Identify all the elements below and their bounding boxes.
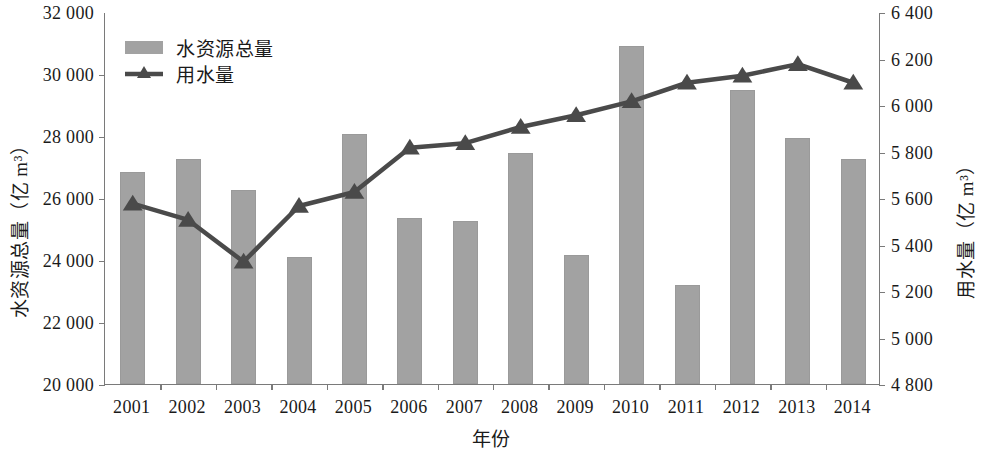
y-right-tick-6200: 6 200 [891,49,933,70]
tickmark-right [879,292,885,293]
legend-label-bar: 水资源总量 [176,34,274,61]
bar-swatch-icon [125,41,163,54]
legend-item-bar: 水资源总量 [125,34,274,60]
tickmark-bottom [715,384,716,390]
tickmark-bottom [216,384,217,390]
y-left-tick-26000: 26 000 [0,189,94,210]
tickmark-left [99,137,105,138]
y-right-tick-6400: 6 400 [891,3,933,24]
y-left-tick-22000: 22 000 [0,313,94,334]
tickmark-left [99,385,105,386]
tickmark-right [879,153,885,154]
y-axis-right-title: 用水量（亿 m³） [951,77,978,377]
line-markers [123,55,863,268]
x-axis-title: 年份 [0,424,982,451]
x-tick-2006: 2006 [390,397,427,418]
tickmark-left [99,261,105,262]
x-tick-2007: 2007 [446,397,483,418]
x-tick-2008: 2008 [501,397,538,418]
legend-label-line: 用水量 [176,60,235,87]
tickmark-bottom [327,384,328,390]
tickmark-bottom [770,384,771,390]
chart-legend: 水资源总量 用水量 [125,34,274,86]
x-tick-2009: 2009 [557,397,594,418]
tickmark-right [879,246,885,247]
line-path [133,64,854,262]
tickmark-bottom [382,384,383,390]
y-right-tick-5200: 5 200 [891,282,933,303]
tickmark-right [879,339,885,340]
line-triangle-swatch-icon [125,63,163,83]
x-tick-2011: 2011 [668,397,705,418]
tickmark-bottom [160,384,161,390]
y-right-tick-6000: 6 000 [891,96,933,117]
tickmark-left [99,323,105,324]
x-tick-2010: 2010 [612,397,649,418]
tickmark-bottom [826,384,827,390]
tickmark-bottom [438,384,439,390]
y-right-tick-4800: 4 800 [891,375,933,396]
tickmark-bottom [493,384,494,390]
y-right-tick-5400: 5 400 [891,235,933,256]
x-tick-2002: 2002 [169,397,206,418]
x-tick-2012: 2012 [723,397,760,418]
x-tick-2001: 2001 [113,397,150,418]
y-left-tick-32000: 32 000 [0,3,94,24]
y-left-tick-28000: 28 000 [0,127,94,148]
y-right-tick-5600: 5 600 [891,189,933,210]
tickmark-right [879,60,885,61]
y-right-tick-5800: 5 800 [891,142,933,163]
line-marker-2001 [123,195,143,211]
tickmark-right [879,199,885,200]
tickmark-bottom [659,384,660,390]
y-left-tick-20000: 20 000 [0,375,94,396]
tickmark-bottom [271,384,272,390]
tickmark-right [879,385,885,386]
x-tick-2004: 2004 [279,397,316,418]
x-tick-2005: 2005 [335,397,372,418]
y-left-tick-30000: 30 000 [0,65,94,86]
x-tick-2013: 2013 [778,397,815,418]
y-left-tick-24000: 24 000 [0,251,94,272]
tickmark-left [99,199,105,200]
tickmark-bottom [548,384,549,390]
tickmark-left [99,75,105,76]
tickmark-right [879,13,885,14]
tickmark-right [879,106,885,107]
legend-item-line: 用水量 [125,60,274,86]
line-marker-2013 [788,55,808,71]
y-right-tick-5000: 5 000 [891,328,933,349]
x-tick-2014: 2014 [834,397,871,418]
dual-axis-chart: 水资源总量（亿 m³） 用水量（亿 m³） 年份 20 00022 00024 … [0,0,982,453]
x-tick-2003: 2003 [224,397,261,418]
tickmark-bottom [604,384,605,390]
